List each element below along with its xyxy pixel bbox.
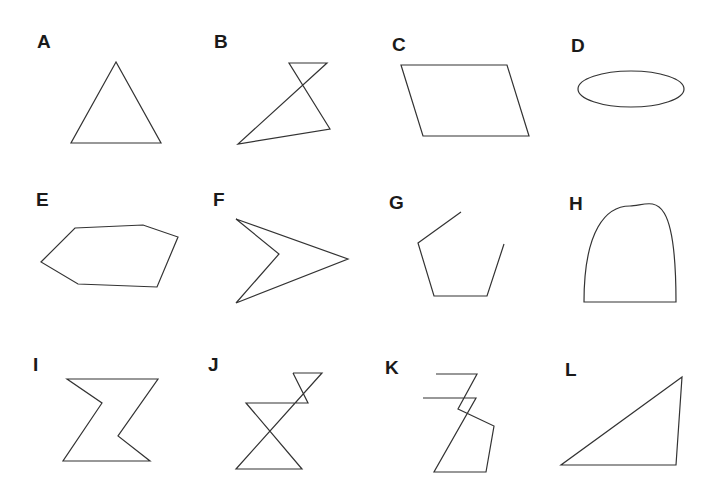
- shape-a-triangle: [71, 62, 161, 143]
- shape-h-arch: [584, 204, 676, 302]
- shape-f-arrowhead: [236, 219, 348, 303]
- shape-e-hexagon: [41, 225, 178, 287]
- shape-j-double-hourglass: [236, 373, 322, 469]
- shapes-canvas: [0, 0, 708, 493]
- shape-k-polyline: [423, 374, 494, 472]
- shape-c-parallelogram: [401, 65, 529, 136]
- shape-g-open-pentagon: [418, 212, 504, 296]
- shape-l-triangle: [561, 377, 682, 465]
- shape-d-ellipse: [578, 71, 684, 107]
- shape-i-hourglass: [63, 379, 158, 461]
- shape-b-crossed-quad: [238, 63, 330, 144]
